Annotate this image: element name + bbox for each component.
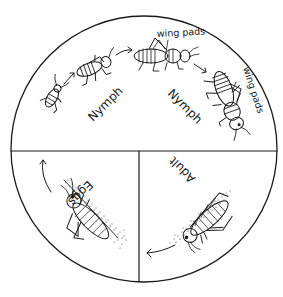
label-nymph-1: Nymph (85, 84, 125, 124)
label-wing-pads-1: wing pads (157, 25, 206, 39)
arrow-eggs-to-nymph (40, 160, 51, 192)
label-nymph-2: Nymph (165, 86, 205, 126)
label-adult: Adult (166, 154, 198, 186)
arrow-adult-to-eggs (147, 245, 175, 257)
adult-grasshopper-illustration (176, 190, 243, 254)
nymph-small-illustration (38, 74, 71, 113)
nymph-wingpads-illustration (134, 38, 199, 71)
label-eggs: Eggs (65, 178, 95, 208)
nymph-medium-illustration (73, 48, 122, 86)
arrow-nymph3-to-nymph4 (194, 64, 206, 73)
arrow-nymph2-to-nymph3 (116, 47, 132, 55)
adult-section (170, 190, 243, 254)
life-cycle-diagram: Nymph Nymph wing pads wing pads (0, 0, 283, 297)
cycle-circle (11, 16, 277, 282)
